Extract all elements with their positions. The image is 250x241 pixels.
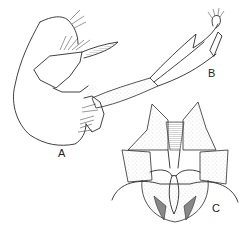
label-b: B [208, 68, 215, 79]
figure-b-drawing [92, 8, 224, 108]
figure-canvas: A B C [0, 0, 250, 241]
label-a: A [58, 148, 65, 159]
label-c: C [212, 203, 220, 214]
figure-a-drawing [13, 10, 118, 145]
